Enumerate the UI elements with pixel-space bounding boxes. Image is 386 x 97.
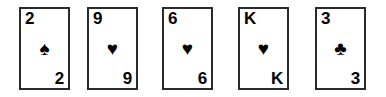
card-face: 6 ♥ 6 xyxy=(164,9,211,88)
playing-card[interactable]: 9 ♥ 9 xyxy=(87,7,138,90)
playing-card[interactable]: 6 ♥ 6 xyxy=(162,7,213,90)
card-rank-top-left: 6 xyxy=(168,10,177,27)
card-rank-bottom-right: 9 xyxy=(123,70,132,87)
card-rank-bottom-right: 2 xyxy=(55,70,64,87)
card-suit-heart-icon: ♥ xyxy=(182,39,193,58)
card-suit-spade-icon: ♠ xyxy=(39,39,49,58)
card-rank-top-left: K xyxy=(244,10,256,27)
card-face: K ♥ K xyxy=(240,9,287,88)
card-rank-top-left: 9 xyxy=(93,10,102,27)
playing-card[interactable]: K ♥ K xyxy=(238,7,289,90)
card-suit-heart-icon: ♥ xyxy=(258,39,269,58)
card-face: 2 ♠ 2 xyxy=(21,9,68,88)
playing-card[interactable]: 2 ♠ 2 xyxy=(19,7,70,90)
card-suit-club-icon: ♣ xyxy=(334,39,346,58)
playing-card-hand: 2 ♠ 2 9 ♥ 9 6 ♥ 6 K ♥ K 3 ♣ 3 xyxy=(0,0,386,97)
card-rank-bottom-right: K xyxy=(271,70,283,87)
card-suit-heart-icon: ♥ xyxy=(107,39,118,58)
card-rank-top-left: 3 xyxy=(321,10,330,27)
card-rank-bottom-right: 3 xyxy=(351,70,360,87)
playing-card[interactable]: 3 ♣ 3 xyxy=(315,7,366,90)
card-rank-bottom-right: 6 xyxy=(198,70,207,87)
card-face: 3 ♣ 3 xyxy=(317,9,364,88)
card-rank-top-left: 2 xyxy=(25,10,34,27)
card-face: 9 ♥ 9 xyxy=(89,9,136,88)
